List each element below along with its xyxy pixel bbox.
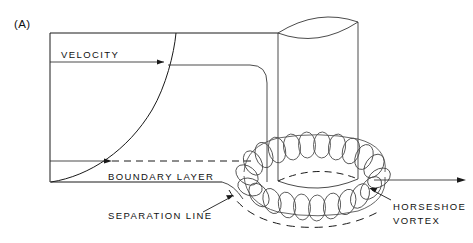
coil-loop-front-8: [347, 181, 374, 212]
outflow-arrowhead: [457, 177, 466, 183]
coil-loop-back-2: [252, 140, 276, 170]
streamline-path: [168, 65, 267, 182]
boundary-layer-arrowhead: [104, 158, 112, 163]
streamline-over-cylinder: [168, 65, 267, 182]
horseshoe-vortex-label-line1: HORSESHOE: [393, 201, 466, 212]
coil-loop-back-8: [340, 136, 362, 165]
outflow-arrow: [374, 177, 466, 183]
cylinder-base-front-arc: [278, 179, 358, 188]
velocity-label: VELOCITY: [61, 49, 119, 60]
horseshoe-vortex-coil: [232, 132, 394, 222]
boundary-layer-label: BOUNDARY LAYER: [108, 171, 214, 182]
separation-line-label: SEPARATION LINE: [108, 210, 213, 221]
horseshoe-vortex-label-line2: VORTEX: [393, 215, 440, 226]
velocity-reference-line: [50, 59, 164, 64]
panel-label: (A): [14, 18, 31, 30]
coil-loop-back-1: [239, 148, 266, 179]
figure-container: (A) VELOCITY BOUNDARY LAYER SEPARATION L…: [0, 0, 473, 243]
coil-loop-front-1: [245, 179, 274, 210]
coil-loop-left-wrap-1: [232, 161, 262, 190]
velocity-arrowhead: [157, 59, 164, 64]
cylinder-top-front-arc: [278, 22, 358, 38]
horseshoe-vortex-diagram: (A) VELOCITY BOUNDARY LAYER SEPARATION L…: [0, 0, 473, 243]
boundary-layer-line: [50, 158, 252, 163]
cylinder-top-back-arc: [278, 17, 358, 33]
cylinder-base-back-arc: [278, 171, 358, 181]
coil-loop-front-3: [276, 191, 298, 220]
